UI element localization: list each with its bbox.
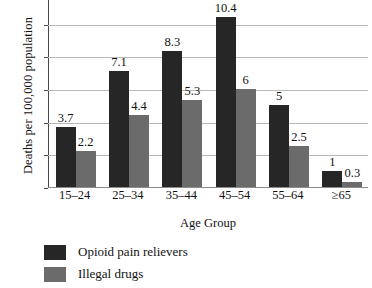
bar[interactable] [342, 182, 362, 187]
bar-group: 52.5 [269, 0, 309, 187]
bar-value-label: 5 [257, 89, 301, 104]
chart-legend: Opioid pain relieversIllegal drugs [44, 241, 188, 285]
x-tick-label: 55–64 [261, 188, 314, 203]
bar-value-label: 7.1 [97, 55, 141, 70]
legend-swatch [44, 267, 66, 282]
bar[interactable] [216, 17, 236, 187]
x-tick-label: 45–54 [208, 188, 261, 203]
gridline [48, 57, 368, 58]
y-tick-mark [44, 25, 48, 26]
bar-group: 10.46 [216, 0, 256, 187]
y-axis-title: Deaths per 100,000 population [21, 6, 36, 186]
bar-chart-figure: Deaths per 100,000 population 024681012 … [0, 0, 372, 288]
x-tick-label: 25–34 [101, 188, 154, 203]
bar-value-label: 4.4 [117, 99, 161, 114]
bar-value-label: 8.3 [150, 35, 194, 50]
bar[interactable] [269, 105, 289, 187]
bar[interactable] [182, 100, 202, 187]
y-axis-line [48, 0, 49, 188]
bar[interactable] [236, 89, 256, 187]
legend-swatch [44, 245, 66, 260]
gridline [48, 25, 368, 26]
bar[interactable] [289, 146, 309, 187]
x-tick-label: 15–24 [48, 188, 101, 203]
legend-item[interactable]: Opioid pain relievers [44, 241, 188, 263]
bar-value-label: 5.3 [170, 84, 214, 99]
bar-value-label: 0.3 [330, 166, 372, 181]
x-tick-label: ≥65 [315, 188, 368, 203]
bar[interactable] [76, 151, 96, 187]
gridline [48, 123, 368, 124]
y-tick-mark [44, 90, 48, 91]
legend-label: Illegal drugs [78, 266, 143, 282]
bar-group: 8.35.3 [162, 0, 202, 187]
y-tick-mark [44, 155, 48, 156]
bar-group: 10.3 [322, 0, 362, 187]
bar-value-label: 10.4 [204, 1, 248, 16]
legend-item[interactable]: Illegal drugs [44, 263, 188, 285]
bar[interactable] [129, 115, 149, 187]
legend-label: Opioid pain relievers [78, 244, 188, 260]
bar[interactable] [162, 51, 182, 187]
bar-value-label: 2.5 [277, 130, 321, 145]
y-tick-mark [44, 57, 48, 58]
plot-area: 024681012 3.72.27.14.48.35.310.4652.510.… [48, 0, 368, 188]
bar-group: 3.72.2 [56, 0, 96, 187]
bar-value-label: 2.2 [64, 135, 108, 150]
bar-group: 7.14.4 [109, 0, 149, 187]
bar-value-label: 6 [224, 73, 268, 88]
x-tick-label: 35–44 [155, 188, 208, 203]
x-axis-title: Age Group [48, 216, 368, 231]
bar[interactable] [109, 71, 129, 187]
bar-value-label: 3.7 [44, 111, 88, 126]
